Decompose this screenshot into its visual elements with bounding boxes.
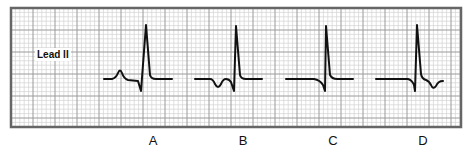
panel-label-c: C xyxy=(328,133,337,148)
lead-label: Lead II xyxy=(35,48,71,61)
panel-label-b: B xyxy=(239,133,248,148)
panel-label-a: A xyxy=(149,133,158,148)
ecg-strip xyxy=(0,0,467,153)
panel-label-d: D xyxy=(418,133,427,148)
